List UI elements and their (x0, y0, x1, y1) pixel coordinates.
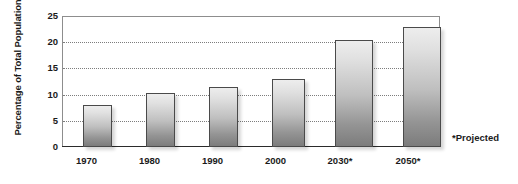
y-axis-line (62, 16, 63, 147)
bar-chart: Percentage of Total Population 25 20 15 … (0, 0, 518, 184)
y-axis-title: Percentage of Total Population (12, 0, 23, 143)
y-tick-5: 5 (36, 115, 58, 126)
x-tick-1990: 1990 (188, 155, 237, 166)
y-tick-10: 10 (36, 89, 58, 100)
y-tick-20: 20 (36, 36, 58, 47)
plot-area (62, 16, 440, 147)
gridline-10 (63, 95, 439, 96)
gridline-5 (63, 121, 439, 122)
x-axis-line (62, 146, 440, 147)
gridline-15 (63, 68, 439, 69)
bar-1990 (209, 87, 238, 147)
bar-2000 (272, 79, 305, 147)
y-tick-0: 0 (36, 141, 58, 152)
y-tick-15: 15 (36, 62, 58, 73)
bar-1970 (83, 105, 112, 147)
projected-footnote: *Projected (452, 132, 499, 143)
x-tick-2030: 2030* (310, 155, 370, 166)
y-axis-tick-labels: 25 20 15 10 5 0 (34, 16, 58, 147)
x-tick-1980: 1980 (125, 155, 174, 166)
x-tick-2000: 2000 (249, 155, 302, 166)
plot-top-border (62, 16, 440, 17)
x-tick-1970: 1970 (62, 155, 111, 166)
y-tick-25: 25 (36, 10, 58, 21)
bar-2030 (335, 40, 373, 147)
bar-2050 (403, 27, 441, 148)
bar-1980 (146, 93, 175, 147)
gridline-20 (63, 42, 439, 43)
x-tick-2050: 2050* (378, 155, 438, 166)
